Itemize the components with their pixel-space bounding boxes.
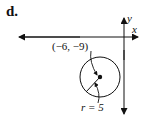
y-axis-label: y — [126, 12, 132, 24]
coordinate-diagram: x y (−6, −9) r = 5 — [0, 0, 146, 118]
radius-pointer-arrow — [95, 83, 99, 103]
center-pointer-arrow — [91, 51, 97, 75]
radius-label: r = 5 — [81, 101, 104, 113]
center-label: (−6, −9) — [52, 40, 89, 53]
x-axis-label: x — [131, 23, 137, 35]
